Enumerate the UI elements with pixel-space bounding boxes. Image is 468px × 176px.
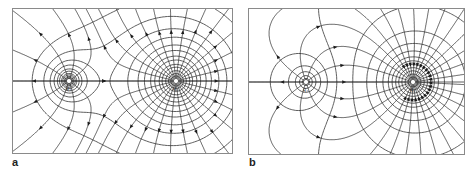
field-lines (13, 9, 233, 154)
field-lines (249, 9, 465, 155)
panel-b-label: b (249, 156, 256, 168)
panel-a-label: a (12, 156, 18, 168)
field-diagram-b: q₁q₂ (249, 9, 465, 155)
field-diagram-a: q₁q₂ (13, 9, 233, 154)
small-charge-label: q₁ (303, 86, 308, 92)
small-charge-label: q₁ (66, 85, 71, 91)
small-charge: q₁ (66, 78, 72, 91)
equipotential-lines (32, 9, 233, 154)
small-charge: q₁ (303, 79, 309, 92)
large-charge-label: q₂ (410, 86, 415, 92)
large-charge: q₂ (173, 78, 179, 91)
panel-b-unlike-charges: q₁q₂ (248, 8, 465, 155)
large-charge: q₂ (410, 79, 416, 92)
panel-a-like-charges: q₁q₂ (12, 8, 233, 154)
large-charge-label: q₂ (173, 85, 178, 91)
